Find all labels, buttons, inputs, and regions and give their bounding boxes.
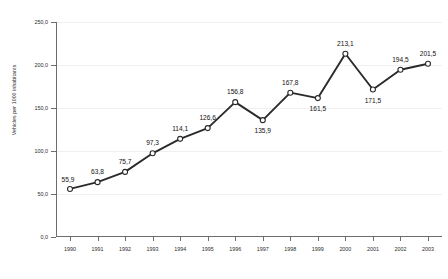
x-axis-tick xyxy=(318,237,319,241)
line-chart: Vehicles per 1000 inhabitants 0,050,0100… xyxy=(0,0,448,279)
data-point-marker xyxy=(233,100,238,105)
x-axis-tick-label: 2003 xyxy=(422,245,434,254)
x-axis-tick xyxy=(428,237,429,241)
data-point-label: 97,3 xyxy=(146,138,159,147)
x-axis-tick xyxy=(70,237,71,241)
y-axis-tick-label: 200,0 xyxy=(35,61,49,70)
x-axis-tick-label: 1995 xyxy=(202,245,214,254)
series-line xyxy=(70,54,428,189)
y-axis-tick-label: 50,0 xyxy=(38,190,49,199)
x-axis-tick xyxy=(263,237,264,241)
x-axis-tick xyxy=(125,237,126,241)
data-point-marker xyxy=(123,169,128,174)
x-axis-tick-label: 1992 xyxy=(119,245,131,254)
data-point-marker xyxy=(315,96,320,101)
x-axis-tick xyxy=(98,237,99,241)
data-point-label: 167,8 xyxy=(282,78,299,87)
y-axis-tick: 0,0 xyxy=(51,237,56,238)
data-point-marker xyxy=(68,186,73,191)
x-axis-tick-label: 1996 xyxy=(229,245,241,254)
series-markers xyxy=(68,51,431,191)
data-point-marker xyxy=(288,90,293,95)
data-point-marker xyxy=(370,87,375,92)
x-axis-tick xyxy=(345,237,346,241)
x-axis-tick-label: 1997 xyxy=(257,245,269,254)
y-axis-title: Vehicles per 1000 inhabitants xyxy=(8,0,20,200)
x-axis-tick xyxy=(290,237,291,241)
data-series xyxy=(56,22,442,237)
data-point-marker xyxy=(398,67,403,72)
data-point-label: 213,1 xyxy=(337,39,354,48)
x-axis-tick xyxy=(400,237,401,241)
data-point-label: 135,9 xyxy=(255,126,272,135)
y-axis-tick-label: 100,0 xyxy=(35,147,49,156)
data-point-label: 75,7 xyxy=(119,157,132,166)
x-axis-tick xyxy=(235,237,236,241)
y-axis-tick-label: 0,0 xyxy=(41,233,49,242)
x-axis-tick-label: 1990 xyxy=(64,245,76,254)
plot-area: 0,050,0100,0150,0200,0250,0 199019911992… xyxy=(56,22,442,237)
data-point-label: 126,6 xyxy=(199,113,216,122)
data-point-label: 55,9 xyxy=(62,175,75,184)
x-axis-tick-label: 2002 xyxy=(394,245,406,254)
data-point-marker xyxy=(426,61,431,66)
x-axis-tick xyxy=(153,237,154,241)
data-point-label: 156,8 xyxy=(227,87,244,96)
data-point-marker xyxy=(205,126,210,131)
data-point-label: 161,5 xyxy=(310,104,327,113)
x-axis-tick-label: 1993 xyxy=(147,245,159,254)
x-axis-tick-label: 1998 xyxy=(284,245,296,254)
data-point-label: 63,8 xyxy=(91,167,104,176)
x-axis-tick-label: 1991 xyxy=(92,245,104,254)
data-point-marker xyxy=(178,136,183,141)
data-point-marker xyxy=(260,118,265,123)
x-axis-tick xyxy=(373,237,374,241)
x-axis-tick xyxy=(208,237,209,241)
x-axis-tick-label: 2000 xyxy=(339,245,351,254)
y-axis-tick-label: 150,0 xyxy=(35,104,49,113)
data-point-marker xyxy=(95,180,100,185)
data-point-label: 194,5 xyxy=(392,55,409,64)
data-point-marker xyxy=(343,51,348,56)
data-point-label: 171,5 xyxy=(365,96,382,105)
x-axis-tick-label: 1994 xyxy=(174,245,186,254)
x-axis-tick-label: 2001 xyxy=(367,245,379,254)
x-axis-tick-label: 1999 xyxy=(312,245,324,254)
data-point-marker xyxy=(150,151,155,156)
y-axis-tick-label: 250,0 xyxy=(35,18,49,27)
data-point-label: 114,1 xyxy=(172,124,188,133)
x-axis-tick xyxy=(180,237,181,241)
data-point-label: 201,5 xyxy=(420,49,437,58)
